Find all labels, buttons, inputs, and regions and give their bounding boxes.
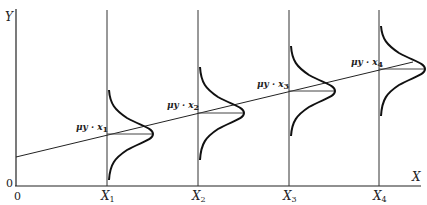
normal-curve-1 [109,90,153,180]
y-axis-label: Y [5,11,13,23]
x1-label: X1 [101,190,115,204]
x-axis-label: X [412,171,421,183]
mean-label-2: μy · x2 [167,101,199,111]
origin-y-label: 0 [6,178,13,189]
x4-label: X4 [373,190,387,204]
regression-line [16,62,413,157]
x2-label: X2 [192,190,206,204]
origin-x-label: 0 [14,191,21,202]
regression-diagram [0,0,427,205]
mean-label-1: μy · x1 [76,123,108,133]
mean-label-4: μy · x4 [351,58,383,68]
mean-label-3: μy · x3 [257,80,289,90]
x3-label: X3 [283,190,297,204]
normal-curve-4 [381,26,425,116]
